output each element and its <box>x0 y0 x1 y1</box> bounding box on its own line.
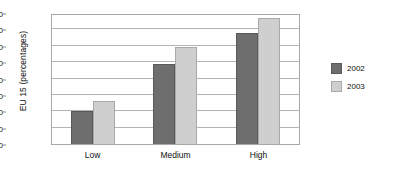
y-axis-tick-mark <box>3 95 6 96</box>
bars-layer <box>52 15 299 144</box>
y-axis-tick-mark <box>3 145 6 146</box>
legend-item[interactable]: 2003 <box>331 77 365 95</box>
bar[interactable] <box>153 64 175 144</box>
bar-group <box>153 15 197 144</box>
y-axis-tick-mark <box>3 112 6 113</box>
y-axis-tick-labels: 01020304050607080 <box>0 0 49 189</box>
legend-label: 2002 <box>347 64 365 73</box>
bar[interactable] <box>71 111 93 144</box>
x-axis-tick-labels: LowMediumHigh <box>51 150 300 160</box>
plot-area <box>51 14 300 145</box>
bar-group <box>71 15 115 144</box>
y-axis-tick-mark <box>3 46 6 47</box>
bar[interactable] <box>236 33 258 144</box>
x-axis-tick-label: Low <box>57 150 129 160</box>
y-axis-tick-mark <box>3 30 6 31</box>
bar-chart-figure: EU 15 (percentages) 01020304050607080 Lo… <box>0 0 394 189</box>
x-axis-tick-label: Medium <box>140 150 212 160</box>
bar[interactable] <box>258 18 280 144</box>
legend-label: 2003 <box>347 82 365 91</box>
y-axis-tick-mark <box>3 128 6 129</box>
y-axis-tick-mark <box>3 63 6 64</box>
bar[interactable] <box>93 101 115 144</box>
y-axis-tick-mark <box>3 79 6 80</box>
legend-color-swatch <box>331 63 342 74</box>
bar-group <box>236 15 280 144</box>
x-axis-tick-label: High <box>223 150 295 160</box>
y-axis-tick-mark <box>3 14 6 15</box>
legend-color-swatch <box>331 81 342 92</box>
legend: 20022003 <box>331 59 365 95</box>
bar[interactable] <box>175 47 197 144</box>
legend-item[interactable]: 2002 <box>331 59 365 77</box>
